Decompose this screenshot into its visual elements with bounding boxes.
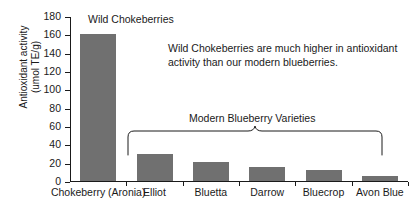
y-axis-title: Antioxidant activity (umol TE/g) (18, 0, 42, 157)
bar (249, 167, 285, 181)
y-tick: 60 (65, 127, 70, 128)
bar (193, 162, 229, 181)
y-tick-label: 20 (31, 157, 61, 169)
x-axis-label: Chokeberry (Aronia) (51, 186, 146, 198)
x-axis-label: Avon Blue (356, 186, 404, 198)
y-tick: 180 (65, 17, 70, 18)
bar (80, 34, 116, 181)
y-tick-label: 120 (31, 65, 61, 77)
y-tick-label: 100 (31, 83, 61, 95)
y-tick-label: 160 (31, 28, 61, 40)
x-axis-labels: Chokeberry (Aronia)ElliotBluettaDarrowBl… (0, 186, 417, 206)
chart-figure: Antioxidant activity (umol TE/g) 0204060… (0, 0, 417, 221)
annotation-bar-label: Wild Chokeberries (88, 13, 174, 25)
y-axis-line (70, 17, 71, 182)
y-tick: 40 (65, 145, 70, 146)
y-tick-label: 80 (31, 102, 61, 114)
x-axis-label: Bluecrop (303, 186, 344, 198)
annotation-group-label: Modern Blueberry Varieties (189, 112, 315, 124)
y-tick-label: 140 (31, 47, 61, 59)
x-axis-label: Darrow (250, 186, 284, 198)
y-tick-label: 40 (31, 138, 61, 150)
y-tick: 100 (65, 90, 70, 91)
y-tick: 20 (65, 164, 70, 165)
y-tick: 140 (65, 54, 70, 55)
y-tick: 160 (65, 35, 70, 36)
annotation-paragraph: Wild Chokeberries are much higher in ant… (168, 42, 398, 69)
group-brace (126, 126, 384, 156)
bar (137, 154, 173, 182)
x-axis-label: Elliot (143, 186, 166, 198)
y-tick-label: 180 (31, 10, 61, 22)
y-tick: 80 (65, 109, 70, 110)
y-axis-title-line1: Antioxidant activity (18, 0, 30, 157)
y-tick: 120 (65, 72, 70, 73)
bar (306, 170, 342, 181)
x-axis-label: Bluetta (194, 186, 227, 198)
bar (362, 176, 398, 181)
y-tick-label: 60 (31, 120, 61, 132)
y-axis-title-line2: (umol TE/g) (30, 0, 42, 157)
y-tick: 0 (65, 182, 70, 183)
